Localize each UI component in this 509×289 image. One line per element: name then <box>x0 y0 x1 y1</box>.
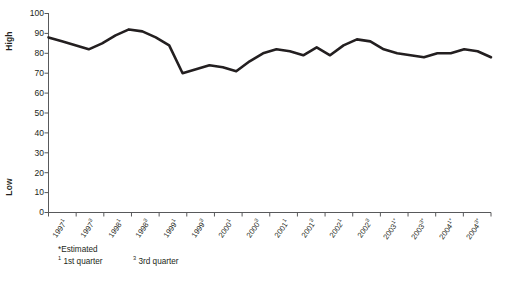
x-tick-label: 20011 <box>261 218 291 256</box>
x-tick-label: 20031* <box>371 218 401 256</box>
footnote-q1-label: 1st quarter <box>63 257 102 266</box>
x-tick-label: 20041* <box>427 218 457 256</box>
x-tick-label: 20001 <box>205 218 235 256</box>
x-tick-label: 19993 <box>178 218 208 256</box>
chart-footnotes: *Estimated 1 1st quarter 3 3rd quarter <box>58 244 179 267</box>
x-tick-label: 20003 <box>233 218 263 256</box>
footnote-q3-marker: 3 <box>133 255 136 261</box>
x-tick-label: 20033* <box>399 218 429 256</box>
footnote-q3-label: 3rd quarter <box>139 257 179 266</box>
x-tick-label: 20021 <box>316 218 346 256</box>
line-chart: High Low 1009080706050403020100 19971199… <box>0 0 509 289</box>
footnote-q1-marker: 1 <box>58 255 61 261</box>
footnote-quarters: 1 1st quarter 3 3rd quarter <box>58 256 179 267</box>
x-tick-label: 20043* <box>454 218 484 256</box>
x-tick-label: 20023 <box>344 218 374 256</box>
footnote-estimated: *Estimated <box>58 245 98 254</box>
x-tick-label: 20013 <box>288 218 318 256</box>
